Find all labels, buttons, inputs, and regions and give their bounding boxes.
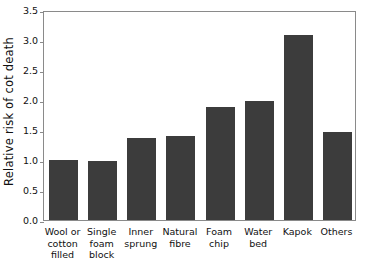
y-axis-tick-label: 2.5: [23, 66, 38, 76]
bars-layer: [44, 12, 355, 220]
x-axis-tick-label-line: bed: [239, 238, 278, 250]
x-axis-tick-label-line: chip: [200, 238, 239, 250]
y-axis-tick-label: 0.0: [23, 216, 38, 226]
y-axis-tick-mark: [40, 12, 44, 13]
y-axis-tick-label: 1.5: [23, 126, 38, 136]
bar: [49, 160, 78, 220]
y-axis-tick-mark: [40, 192, 44, 193]
y-axis-tick-mark: [40, 162, 44, 163]
x-axis-tick-label-line: foam: [82, 238, 121, 250]
bar: [127, 138, 156, 220]
x-axis-tick-label-line: filled: [43, 249, 82, 261]
x-axis-tick-label: Wool orcottonfilled: [43, 226, 82, 261]
bar: [166, 136, 195, 220]
x-axis-tick-label-line: fibre: [160, 238, 199, 250]
y-axis-tick-mark: [40, 102, 44, 103]
x-axis-tick-label-line: Single: [82, 226, 121, 238]
x-axis-tick-label-line: Natural: [160, 226, 199, 238]
x-axis-tick-label: Naturalfibre: [160, 226, 199, 249]
x-axis-tick-label: Kapok: [278, 226, 317, 238]
y-axis-tick-mark: [40, 72, 44, 73]
x-axis-tick-label: Singlefoamblock: [82, 226, 121, 261]
x-axis-tick-label-line: Others: [317, 226, 356, 238]
bar: [245, 101, 274, 220]
y-axis-tick-mark: [40, 42, 44, 43]
y-axis-tick-label: 0.5: [23, 186, 38, 196]
bar-chart: Relative risk of cot death 0.00.51.01.52…: [0, 0, 366, 268]
y-axis-title: Relative risk of cot death: [0, 0, 18, 222]
x-axis-tick-label-line: Inner: [121, 226, 160, 238]
x-axis-tick-labels: Wool orcottonfilledSinglefoamblockInners…: [43, 226, 356, 268]
bar: [88, 161, 117, 220]
y-axis-tick-mark: [40, 222, 44, 223]
x-axis-tick-label: Waterbed: [239, 226, 278, 249]
y-axis-tick-labels: 0.00.51.01.52.02.53.03.5: [18, 0, 41, 228]
y-axis-tick-label: 3.0: [23, 36, 38, 46]
x-axis-tick-label-line: Wool or: [43, 226, 82, 238]
x-axis-tick-label: Others: [317, 226, 356, 238]
x-axis-tick-label: Foamchip: [200, 226, 239, 249]
x-axis-tick-label: Innersprung: [121, 226, 160, 249]
y-axis-tick-mark: [40, 132, 44, 133]
bar: [284, 35, 313, 220]
x-axis-tick-label-line: Water: [239, 226, 278, 238]
x-axis-tick-label-line: Kapok: [278, 226, 317, 238]
y-axis-title-text: Relative risk of cot death: [2, 37, 16, 186]
y-axis-tick-label: 1.0: [23, 156, 38, 166]
y-axis-tick-label: 2.0: [23, 96, 38, 106]
x-axis-tick-label-line: cotton: [43, 238, 82, 250]
x-axis-tick-label-line: Foam: [200, 226, 239, 238]
x-axis-tick-label-line: sprung: [121, 238, 160, 250]
bar: [323, 132, 352, 220]
bar: [206, 107, 235, 220]
y-axis-tick-label: 3.5: [23, 6, 38, 16]
plot-area: [43, 11, 356, 221]
x-axis-tick-label-line: block: [82, 249, 121, 261]
